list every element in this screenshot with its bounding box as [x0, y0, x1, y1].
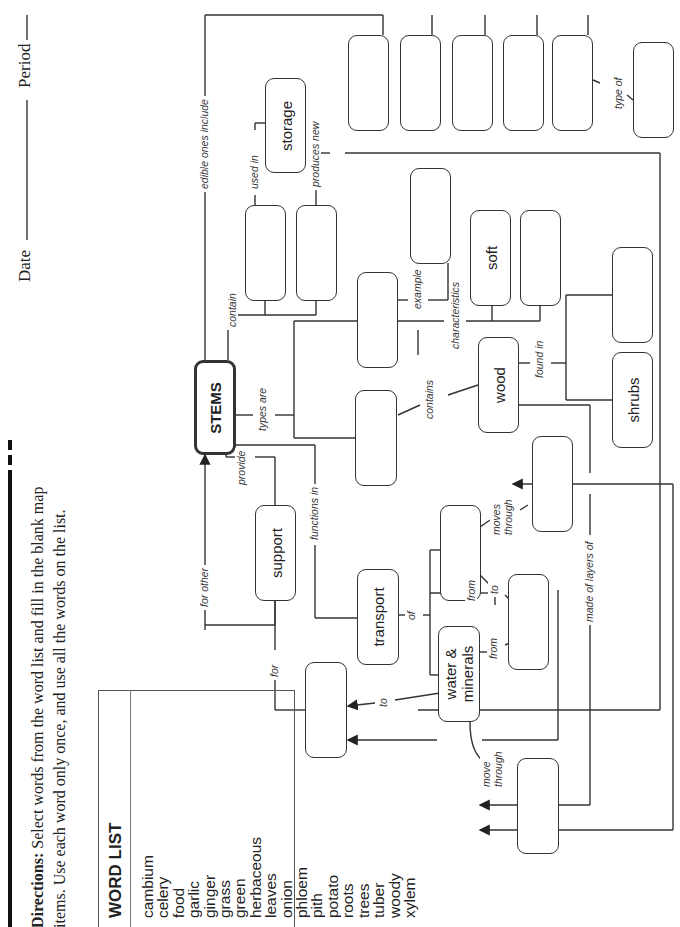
link-from-upper: from — [465, 577, 477, 604]
link-to: to — [488, 582, 500, 597]
link-from-lower: from — [487, 635, 499, 662]
node-soft: soft — [470, 210, 511, 306]
link-move-through: movethrough — [480, 748, 504, 790]
link-for-other: for other — [198, 565, 210, 610]
word-list-items: cambium celery food garlic ginger grass … — [140, 837, 417, 918]
word: roots — [340, 837, 355, 918]
period-label: Period — [15, 44, 35, 88]
word: phloem — [294, 837, 309, 918]
blank-node-edible-5[interactable] — [552, 35, 593, 131]
link-made-of-layers-of: made of layers of — [583, 538, 595, 625]
word: onion — [279, 837, 294, 918]
link-to-lower: to — [377, 695, 389, 710]
blank-node-edible-4[interactable] — [503, 35, 544, 131]
word: xylem — [402, 837, 417, 918]
link-for: for — [268, 662, 280, 680]
blank-node-type-1[interactable] — [357, 272, 398, 368]
blank-node-edible-part-1[interactable] — [245, 205, 286, 301]
directions-line2: items. Use each word only once, and use … — [49, 487, 71, 927]
link-edible-ones-include: edible ones include — [198, 96, 210, 192]
word-list-divider — [130, 690, 131, 927]
link-type-of: type of — [612, 74, 624, 112]
word: ginger — [202, 837, 217, 918]
link-contain: contain — [226, 290, 238, 330]
word: food — [171, 837, 186, 918]
word: celery — [155, 837, 170, 918]
blank-node-edible-2[interactable] — [400, 35, 441, 131]
node-transport: transport — [357, 569, 399, 665]
word: herbaceous — [248, 837, 263, 918]
link-characteristics: characteristics — [449, 279, 461, 352]
link-produces-new: produces new — [309, 119, 321, 190]
node-storage: storage — [265, 78, 306, 173]
link-types-are: types are — [256, 385, 268, 434]
word: leaves — [263, 837, 278, 918]
node-support: support — [255, 505, 296, 601]
date-label: Date — [15, 250, 35, 282]
blank-node-edible-1[interactable] — [348, 35, 389, 131]
link-used-in: used in — [248, 152, 260, 192]
blank-node-edible-part-2[interactable] — [296, 205, 337, 301]
link-of: of — [405, 608, 417, 623]
word: potato — [325, 837, 340, 918]
word: tuber — [371, 837, 386, 918]
link-example: example — [411, 266, 423, 312]
blank-node-from-to[interactable] — [508, 574, 549, 670]
blank-node-layers[interactable] — [532, 436, 573, 532]
word: garlic — [186, 837, 201, 918]
link-provide: provide — [235, 448, 247, 488]
link-moves-through: movesthrough — [490, 496, 514, 538]
link-contains: contains — [423, 377, 435, 422]
blank-node-move-through[interactable] — [517, 758, 559, 854]
directions-bold: Directions: — [29, 853, 46, 927]
blank-node-type-of[interactable] — [633, 42, 674, 138]
word: grass — [217, 837, 232, 918]
blank-node-edible-3[interactable] — [452, 35, 493, 131]
blank-node-to-for[interactable] — [305, 662, 347, 758]
node-water-minerals: water &minerals — [438, 626, 480, 722]
node-wood: wood — [478, 337, 519, 433]
word: pith — [309, 837, 324, 918]
link-found-in: found in — [533, 338, 545, 381]
word: green — [232, 837, 247, 918]
word: woody — [387, 837, 402, 918]
worksheet-page: Date Period Directions: Select words fro… — [0, 0, 680, 927]
blank-node-example[interactable] — [410, 168, 451, 264]
blank-node-characteristic[interactable] — [520, 210, 561, 306]
node-shrubs: shrubs — [612, 352, 653, 448]
blank-node-found-in[interactable] — [612, 247, 653, 343]
blank-node-type-2[interactable] — [355, 390, 397, 486]
word-list-title: WORD LIST — [106, 823, 126, 918]
link-functions-in: functions in — [308, 484, 320, 543]
word: trees — [356, 837, 371, 918]
directions-line1: Select words from the word list and fill… — [29, 487, 46, 849]
directions-text: Directions: Select words from the word l… — [27, 487, 71, 927]
node-stems: STEMS — [194, 360, 236, 455]
word: cambium — [140, 837, 155, 918]
